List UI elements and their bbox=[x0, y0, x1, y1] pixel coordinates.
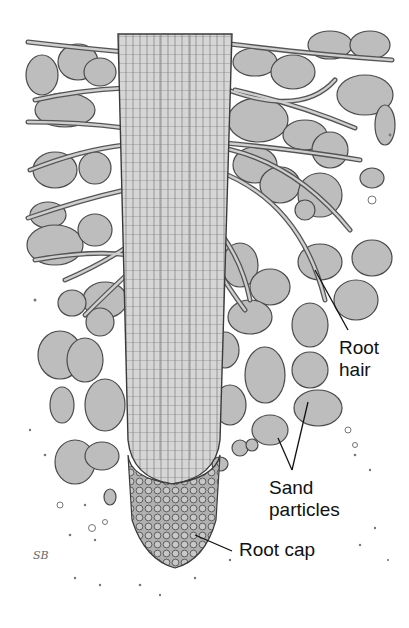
sand-leader-1 bbox=[278, 438, 292, 470]
root-diagram-illustration bbox=[0, 0, 409, 628]
label-sand-line1: Sand bbox=[269, 477, 340, 499]
artist-signature: SB bbox=[33, 549, 49, 562]
root-body bbox=[118, 34, 232, 568]
label-root-hair: Root hair bbox=[339, 337, 379, 381]
label-root-hair-line1: Root bbox=[339, 337, 379, 359]
label-sand-particles: Sand particles bbox=[269, 477, 340, 521]
label-root-cap: Root cap bbox=[239, 539, 315, 561]
label-sand-line2: particles bbox=[269, 499, 340, 521]
label-root-hair-line2: hair bbox=[339, 359, 379, 381]
